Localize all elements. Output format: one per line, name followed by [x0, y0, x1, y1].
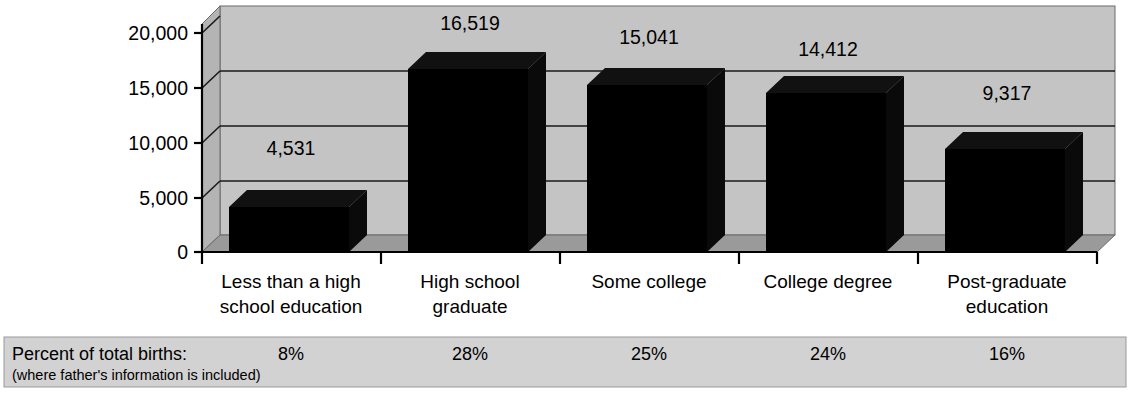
bar-front-face [408, 69, 528, 252]
bar-side-face [886, 76, 904, 252]
category-label-1-line1: High school [420, 271, 519, 292]
footer-panel: Percent of total births: (where father's… [4, 337, 1126, 387]
category-label-2-line1: Some college [591, 271, 706, 292]
value-label-1: 16,519 [440, 12, 500, 34]
bar-front-face [229, 207, 349, 252]
percent-label-3: 24% [810, 344, 846, 364]
bar-top-face [945, 132, 1083, 149]
footer-main-label: Percent of total births: [12, 344, 187, 364]
value-label-2: 15,041 [619, 26, 679, 48]
bar-front-face [766, 93, 886, 252]
footer-sub-label: (where father's information is included) [12, 367, 261, 383]
bar-group-high-school-graduate[interactable] [408, 52, 546, 252]
bar-group-less-than-high-school[interactable] [229, 190, 367, 252]
bar-group-college-degree[interactable] [766, 76, 904, 252]
bar-top-face [587, 68, 725, 85]
bar-front-face [945, 149, 1065, 252]
y-axis-tick-labels: 20,000 15,000 10,000 5,000 0 [128, 22, 188, 263]
category-label-0-line2: school education [220, 296, 363, 317]
bar-group-some-college[interactable] [587, 68, 725, 252]
category-label-0-line1: Less than a high [221, 271, 360, 292]
bar-front-face [587, 85, 707, 252]
chart-figure: 20,000 15,000 10,000 5,000 0 4,531 16,51… [0, 0, 1133, 415]
bar-top-face [229, 190, 367, 207]
percent-label-1: 28% [452, 344, 488, 364]
percent-label-0: 8% [278, 344, 304, 364]
y-tick-label-10000: 10,000 [128, 132, 188, 154]
category-label-4-line2: education [966, 296, 1048, 317]
category-label-1-line2: graduate [432, 296, 507, 317]
y-tick-label-15000: 15,000 [128, 77, 188, 99]
bar-chart-3d: 20,000 15,000 10,000 5,000 0 4,531 16,51… [0, 0, 1133, 415]
bar-side-face [528, 52, 546, 252]
category-label-4-line1: Post-graduate [947, 271, 1066, 292]
value-label-4: 9,317 [983, 82, 1032, 104]
percent-label-4: 16% [989, 344, 1025, 364]
bar-top-face [408, 52, 546, 69]
bar-side-face [707, 68, 725, 252]
y-tick-label-0: 0 [177, 241, 188, 263]
value-label-3: 14,412 [798, 38, 858, 60]
bar-side-face [1065, 132, 1083, 252]
y-tick-label-20000: 20,000 [128, 22, 188, 44]
bar-top-face [766, 76, 904, 93]
y-tick-label-5000: 5,000 [139, 187, 188, 209]
category-label-3-line1: College degree [764, 271, 893, 292]
bar-group-post-graduate[interactable] [945, 132, 1083, 252]
category-labels: Less than a high school education High s… [220, 271, 1067, 317]
value-label-0: 4,531 [267, 137, 316, 159]
percent-label-2: 25% [631, 344, 667, 364]
